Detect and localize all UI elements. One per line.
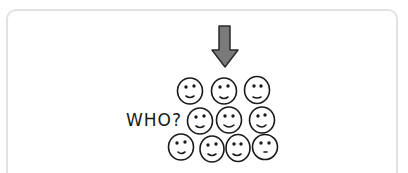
smiley-face-icon [178,78,203,104]
smiley-face-icon [212,78,237,104]
smiley-face-icon [226,135,250,162]
smiley-face-icon [250,107,275,133]
who-label: WHO? [126,110,182,130]
smiley-face-icon [245,77,270,104]
crowd-illustration [0,0,408,173]
smiley-face-icon [253,135,278,160]
down-arrow-icon [212,26,238,67]
smiley-face-icon [188,108,213,134]
smiley-face-icon [169,134,194,160]
smiley-face-icon [200,136,224,162]
smiley-face-icon [217,107,242,133]
